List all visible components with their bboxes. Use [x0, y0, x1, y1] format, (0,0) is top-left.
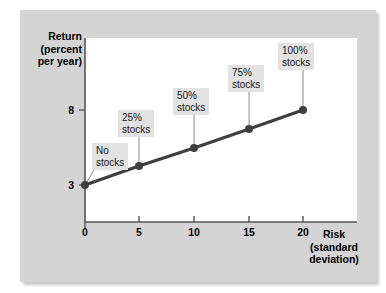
point-label-50-percent-stocks: 50% stocks — [173, 88, 209, 115]
point-label-100-percent-stocks: 100% stocks — [278, 43, 314, 70]
figure-root: Return (percent per year) Risk (standard… — [0, 0, 386, 293]
x-tick-label-20: 20 — [294, 226, 312, 238]
point-label-75-percent-stocks: 75% stocks — [228, 65, 264, 92]
y-axis-title: Return (percent per year) — [22, 30, 82, 68]
y-tick-label-3: 3 — [56, 179, 74, 191]
point-label-no-stocks: No stocks — [92, 143, 128, 170]
x-tick-label-0: 0 — [76, 226, 94, 238]
x-tick-label-15: 15 — [240, 226, 258, 238]
point-label-25-percent-stocks: 25% stocks — [118, 110, 154, 137]
x-tick-label-5: 5 — [130, 226, 148, 238]
y-tick-label-8: 8 — [56, 104, 74, 116]
x-tick-label-10: 10 — [185, 226, 203, 238]
